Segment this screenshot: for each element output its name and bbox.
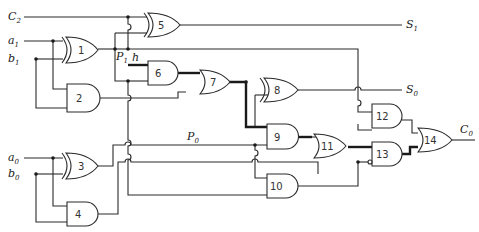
svg-text:7: 7 <box>210 77 216 88</box>
gate-4-and: 4 <box>67 202 98 226</box>
svg-text:3: 3 <box>78 161 84 172</box>
svg-text:13: 13 <box>376 149 389 160</box>
gate-8-xor: 8 <box>260 78 298 102</box>
label-h: h <box>132 51 139 64</box>
gate-13-and: 13 <box>368 142 402 166</box>
label-c2: C2 <box>8 10 21 25</box>
label-p1: P1 <box>115 50 128 65</box>
label-b1: b1 <box>8 52 20 67</box>
gate-7-or: 7 <box>200 70 230 94</box>
gate-5-xor: 5 <box>144 13 180 37</box>
svg-text:6: 6 <box>155 68 161 79</box>
label-a1: a1 <box>8 34 19 49</box>
label-p0: P0 <box>186 130 199 145</box>
input-labels: C2 a1 b1 a0 b0 <box>8 10 21 182</box>
label-b0: b0 <box>8 167 20 182</box>
gate-1-xor: 1 <box>62 37 98 63</box>
label-c0: C0 <box>460 123 473 138</box>
gate-3-xor: 3 <box>62 153 98 179</box>
svg-text:12: 12 <box>376 111 389 122</box>
svg-text:2: 2 <box>76 93 82 104</box>
label-s0: S0 <box>406 83 419 98</box>
gate-6-and: 6 <box>148 61 178 85</box>
gate-12-and: 12 <box>372 104 402 128</box>
svg-text:8: 8 <box>274 85 280 96</box>
svg-text:11: 11 <box>321 141 334 152</box>
output-labels: S1 S0 C0 <box>406 18 473 138</box>
gate-14-or: 14 <box>418 128 452 152</box>
gate-11-or: 11 <box>314 134 346 158</box>
label-s1: S1 <box>406 18 418 33</box>
svg-text:1: 1 <box>78 45 84 56</box>
svg-text:14: 14 <box>424 135 437 146</box>
gate-10-and: 10 <box>267 174 298 198</box>
gate-2-and: 2 <box>67 84 100 112</box>
svg-text:4: 4 <box>75 209 81 220</box>
svg-text:10: 10 <box>270 181 283 192</box>
gate-9-and: 9 <box>267 124 299 149</box>
svg-text:9: 9 <box>274 132 280 143</box>
label-a0: a0 <box>8 151 20 166</box>
svg-text:5: 5 <box>158 20 164 31</box>
logic-circuit-diagram: 1 2 3 4 5 6 7 8 9 <box>0 0 479 232</box>
